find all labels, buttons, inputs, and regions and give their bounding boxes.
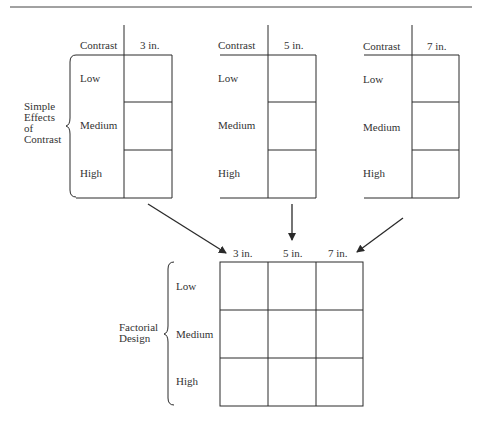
factorial-row-low: Low	[176, 280, 196, 292]
arrow-7in	[357, 218, 403, 252]
table-5in-header-right: 5 in.	[284, 39, 304, 51]
arrow-3in	[148, 204, 226, 253]
table-7in-row-high: High	[363, 167, 385, 179]
factorial-design-label-line-2: Design	[119, 333, 158, 344]
factorial-col-5in: 5 in.	[283, 247, 303, 259]
table-3in-row-high: High	[80, 167, 102, 179]
factorial-col-3in: 3 in.	[233, 247, 253, 259]
simple-effects-label: Simple Effects of Contrast	[24, 101, 61, 145]
diagram-lines	[0, 0, 481, 430]
table-5in-row-high: High	[218, 167, 240, 179]
table-7in-header-right: 7 in.	[427, 40, 447, 52]
factorial-row-high: High	[176, 375, 198, 387]
factorial-col-7in: 7 in.	[328, 247, 348, 259]
simple-effects-label-line-4: Contrast	[24, 134, 61, 145]
factorial-grid-lines	[220, 262, 363, 406]
table-5in-header-left: Contrast	[218, 39, 255, 51]
factorial-design-label: Factorial Design	[119, 322, 158, 344]
table-5in-row-low: Low	[218, 72, 238, 84]
brace-factorial-design	[164, 262, 174, 405]
brace-simple-effects	[66, 55, 76, 197]
table-3in-row-medium: Medium	[80, 119, 117, 131]
table-3in-row-low: Low	[80, 72, 100, 84]
table-7in-header-left: Contrast	[363, 40, 400, 52]
table-3in-header-left: Contrast	[80, 39, 117, 51]
table-7in-row-low: Low	[363, 73, 383, 85]
table-5in-row-medium: Medium	[218, 119, 255, 131]
table-3in-header-right: 3 in.	[140, 39, 160, 51]
factorial-row-medium: Medium	[176, 328, 213, 340]
table-7in-row-medium: Medium	[363, 121, 400, 133]
